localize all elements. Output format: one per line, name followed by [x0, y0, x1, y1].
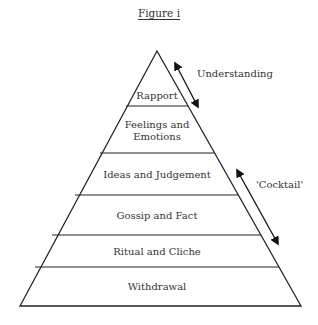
layer-ideas: Ideas and Judgement	[103, 169, 211, 181]
cocktail-label: 'Cocktail'	[256, 179, 303, 190]
layer-gossip: Gossip and Fact	[117, 210, 198, 222]
layer-feelings-line1: Feelings and	[125, 119, 190, 131]
layer-withdrawal: Withdrawal	[128, 281, 187, 293]
understanding-arrow	[175, 63, 198, 107]
communication-pyramid-figure: Figure i Rapport Feelings and Emotions I…	[0, 0, 318, 325]
layer-rapport: Rapport	[136, 90, 177, 102]
layer-feelings: Feelings and Emotions	[125, 119, 190, 143]
layer-feelings-line2: Emotions	[125, 131, 190, 143]
understanding-label: Understanding	[197, 68, 273, 79]
pyramid-diagram	[0, 0, 318, 325]
layer-ritual: Ritual and Cliche	[113, 246, 201, 258]
